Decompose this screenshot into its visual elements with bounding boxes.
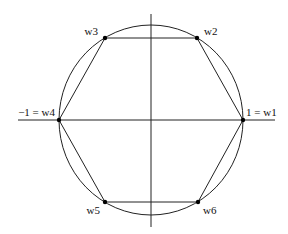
- label-w5: w5: [87, 204, 101, 216]
- point-w5: [103, 200, 107, 204]
- label-w6: w6: [203, 204, 217, 216]
- label-w4: −1 = w4: [18, 106, 55, 118]
- point-w6: [196, 200, 200, 204]
- label-w2: w2: [204, 25, 217, 37]
- label-w1: 1 = w1: [246, 106, 277, 118]
- point-w2: [195, 36, 199, 40]
- point-w3: [103, 36, 107, 40]
- label-w3: w3: [85, 25, 99, 37]
- point-w1: [241, 118, 245, 122]
- roots-of-unity-diagram: 1 = w1w2w3−1 = w4w5w6: [0, 0, 288, 234]
- point-w4: [57, 118, 61, 122]
